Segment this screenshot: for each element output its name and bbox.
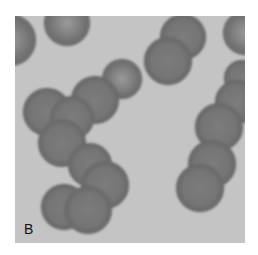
red-blood-cell: [176, 164, 224, 212]
red-blood-cell: [64, 186, 112, 234]
micrograph-panel: B: [15, 16, 245, 243]
red-blood-cell: [144, 37, 192, 85]
figure: B: [0, 0, 258, 255]
red-blood-cells-image: [15, 16, 245, 243]
panel-label: B: [24, 222, 33, 236]
